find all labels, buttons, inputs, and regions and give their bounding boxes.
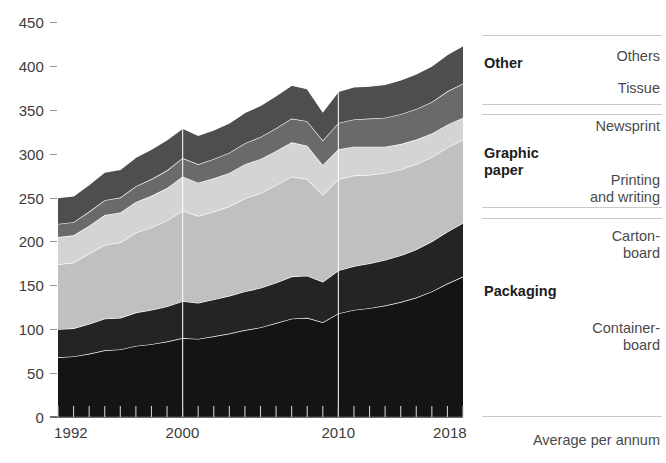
legend-item[interactable]: Container- board xyxy=(592,320,660,354)
x-axis-label: 1992 xyxy=(54,424,88,441)
legend-separator xyxy=(482,35,662,36)
y-axis-tick xyxy=(50,285,57,286)
legend-group-label: Packaging xyxy=(484,283,557,300)
legend-group-label: Other xyxy=(484,55,523,72)
y-axis-tick xyxy=(50,22,57,23)
legend-group-label: Graphic paper xyxy=(484,145,539,179)
legend-separator xyxy=(482,104,662,105)
chart-legend: OtherOthersTissueGraphic paperNewsprintP… xyxy=(478,0,666,463)
x-axis-label: 2018 xyxy=(433,424,467,441)
legend-separator xyxy=(482,114,662,115)
x-axis-label: 2010 xyxy=(321,424,355,441)
area-series-layer xyxy=(0,0,478,463)
y-axis-tick xyxy=(50,198,57,199)
legend-item[interactable]: Tissue xyxy=(618,80,660,97)
y-axis-tick xyxy=(50,110,57,111)
legend-separator xyxy=(482,207,662,208)
y-axis-tick xyxy=(50,66,57,67)
legend-item[interactable]: Newsprint xyxy=(596,118,660,135)
y-axis-tick xyxy=(50,241,57,242)
legend-separator xyxy=(482,218,662,219)
stacked-area-chart: 050100150200250300350400450 199220002010… xyxy=(0,0,666,463)
legend-footer-note: Average per annum xyxy=(478,432,660,448)
y-axis-tick xyxy=(50,373,57,374)
legend-item[interactable]: Others xyxy=(616,48,660,65)
y-axis-tick xyxy=(50,329,57,330)
legend-item[interactable]: Carton- board xyxy=(612,228,660,262)
y-axis-tick xyxy=(50,154,57,155)
plot-area: 050100150200250300350400450 199220002010… xyxy=(0,0,478,463)
legend-item[interactable]: Printing and writing xyxy=(590,172,660,206)
legend-separator xyxy=(482,416,662,417)
x-axis-label: 2000 xyxy=(166,424,200,441)
x-axis: 1992200020102018 xyxy=(0,424,478,446)
